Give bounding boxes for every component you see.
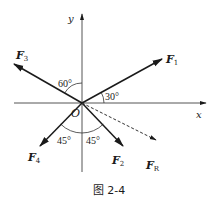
force-f1-vector <box>82 59 162 103</box>
force-f2-label: F2 <box>111 154 124 168</box>
x-axis-label: x <box>196 109 202 120</box>
force-f3-label: F3 <box>15 49 28 63</box>
y-axis-label: y <box>67 13 74 24</box>
angle-label-45-left: 45° <box>57 135 71 146</box>
force-f1-label: F1 <box>165 53 178 67</box>
force-f4-label: F4 <box>27 151 41 165</box>
force-diagram: y x O F1 F3 F4 F2 FR 30° 60° 45° 45° <box>0 0 218 204</box>
angle-arc-f1 <box>101 92 104 103</box>
angle-label-60: 60° <box>58 78 72 89</box>
figure-caption: 图 2-4 <box>0 181 218 197</box>
angle-label-30: 30° <box>105 91 119 102</box>
force-fr-label: FR <box>145 159 160 173</box>
angle-label-45-right: 45° <box>86 135 100 146</box>
origin-label: O <box>71 107 80 120</box>
